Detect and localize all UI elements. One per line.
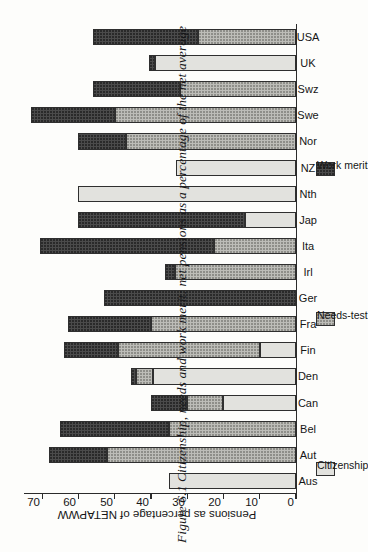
value-tick	[150, 494, 151, 499]
bar-swe	[24, 107, 296, 123]
bar-irl	[24, 264, 296, 280]
bar-segment-needs	[174, 264, 295, 280]
value-tick-label: 20	[187, 496, 221, 508]
value-tick-label: 70	[6, 496, 40, 508]
bar-bel	[24, 421, 296, 437]
value-tick-label: 60	[42, 496, 76, 508]
bar-segment-needs	[179, 81, 295, 97]
bar-aut	[24, 447, 296, 463]
figure-caption-text: Citizenship, needs and work merit: net p…	[174, 26, 189, 482]
bar-nth	[24, 186, 296, 202]
bar-segment-work	[149, 55, 154, 71]
figure-number: Figure 6.1	[174, 486, 189, 544]
bar-segment-needs	[198, 29, 296, 45]
value-axis-title: Pensions as percentage of NETAPWW	[42, 509, 272, 521]
value-tick	[259, 494, 260, 499]
bar-nor	[24, 133, 296, 149]
bar-usa	[24, 29, 296, 45]
value-tick-label: 40	[114, 496, 148, 508]
bar-segment-work	[92, 81, 179, 97]
bar-segment-needs	[187, 395, 223, 411]
value-tick-label: 10	[223, 496, 257, 508]
bar-segment-citizenship	[223, 395, 296, 411]
value-tick	[41, 494, 42, 499]
bar-aus	[24, 473, 296, 489]
bar-segment-citizenship	[176, 160, 296, 176]
bar-segment-needs	[114, 107, 295, 123]
bar-segment-work	[78, 133, 125, 149]
legend-label-needs: Needs-test	[317, 309, 368, 321]
bar-segment-work	[31, 107, 114, 123]
bar-segment-work	[63, 342, 117, 358]
bar-segment-needs	[150, 316, 295, 332]
legend-label-citizenship: Citizenship	[317, 459, 368, 471]
bar-jap	[24, 212, 296, 228]
bar-fra	[24, 316, 296, 332]
bar-ger	[24, 290, 296, 306]
value-tick	[114, 494, 115, 499]
bar-segment-work	[103, 290, 295, 306]
value-tick	[77, 494, 78, 499]
legend-label-work: Work merit	[317, 159, 368, 171]
bar-can	[24, 395, 296, 411]
bar-fin	[24, 342, 296, 358]
bar-segment-work	[67, 316, 150, 332]
bar-segment-work	[60, 421, 169, 437]
bar-swz	[24, 81, 296, 97]
bar-segment-citizenship	[245, 212, 296, 228]
bar-den	[24, 368, 296, 384]
value-tick-label: 50	[78, 496, 112, 508]
bar-segment-needs	[125, 133, 295, 149]
bar-uk	[24, 55, 296, 71]
bar-ita	[24, 238, 296, 254]
value-tick	[222, 494, 223, 499]
value-tick-label: 0	[260, 496, 294, 508]
bar-segment-work	[49, 447, 107, 463]
bar-segment-work	[78, 212, 245, 228]
value-axis-line	[24, 493, 296, 494]
bar-segment-citizenship	[259, 342, 295, 358]
bar-segment-work	[165, 264, 174, 280]
bar-nz	[24, 160, 296, 176]
figure-caption: Figure 6.1 Citizenship, needs and work m…	[174, 23, 190, 543]
bar-segment-needs	[136, 368, 152, 384]
value-tick	[295, 494, 296, 499]
bar-segment-needs	[214, 238, 296, 254]
bar-segment-needs	[107, 447, 296, 463]
bar-segment-work	[131, 368, 136, 384]
